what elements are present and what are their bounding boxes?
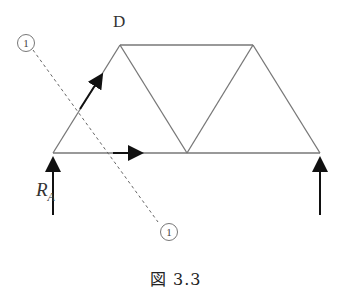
truss-members	[53, 45, 320, 153]
section-marker-bottom: 1	[160, 223, 178, 241]
force-arrow-diagonal	[80, 76, 101, 109]
reaction-label: RA	[36, 179, 55, 205]
truss-diagram	[0, 0, 344, 299]
section-marker-top: 1	[17, 34, 35, 52]
node-label-d: D	[113, 12, 125, 32]
figure-caption: 図 3.3	[150, 266, 202, 290]
